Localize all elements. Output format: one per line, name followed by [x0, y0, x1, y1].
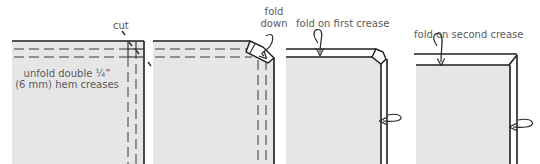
fabric-panel-4 [416, 65, 510, 164]
cut-tick-1 [122, 31, 125, 35]
miter-diagonal [509, 55, 517, 65]
fold-down-label-line-2: down [261, 18, 288, 29]
fabric-panel-1 [12, 41, 144, 164]
step-4-fold-second-crease: fold on second crease [414, 29, 533, 164]
fold-first-crease-label: fold on first crease [296, 18, 389, 29]
fabric-panel-2 [153, 41, 275, 164]
unfold-label-line-2: (6 mm) hem creases [15, 79, 119, 90]
unfold-label-line-1: unfold double ¼” [24, 68, 111, 79]
fold-side-arrow-icon [513, 119, 533, 127]
mitered-hem-diagram: cut unfold double ¼” (6 mm) hem creases … [0, 0, 540, 164]
fold-second-crease-label: fold on second crease [414, 29, 523, 40]
fold-down-label-line-1: fold [265, 6, 284, 17]
fold-side-arrow-icon [383, 114, 401, 121]
step-3-fold-first-crease: fold on first crease [286, 18, 401, 164]
cut-tick-4 [148, 62, 151, 66]
fabric-panel-3 [286, 57, 380, 164]
step-1-unfold-creases: cut unfold double ¼” (6 mm) hem creases [12, 20, 151, 164]
step-2-fold-corner-down: fold down [153, 6, 287, 164]
cut-label: cut [113, 20, 129, 31]
